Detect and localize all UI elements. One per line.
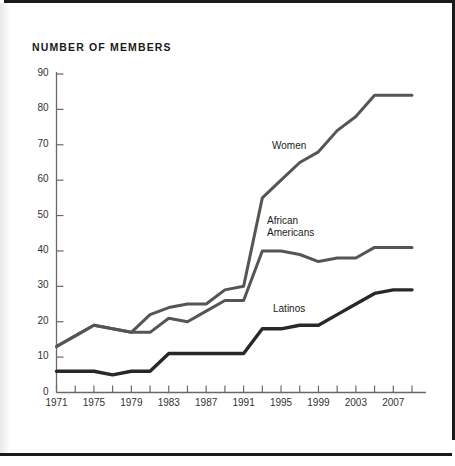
y-axis-tick-label: 70: [27, 138, 49, 149]
x-axis-tick-label: 1983: [152, 397, 186, 408]
x-axis-tick-label: 2003: [339, 397, 373, 408]
y-axis-tick-label: 0: [27, 386, 49, 397]
series-label-women: Women: [272, 140, 306, 152]
series-label-latinos: Latinos: [273, 303, 305, 315]
x-axis-tick-label: 2007: [376, 397, 410, 408]
x-axis-tick-label: 1979: [114, 397, 148, 408]
x-axis-tick-label: 1987: [189, 397, 223, 408]
x-axis-tick-label: 1995: [264, 397, 298, 408]
x-axis-tick-label: 1991: [227, 397, 261, 408]
y-axis-tick-label: 90: [27, 67, 49, 78]
chart-ticks: [57, 74, 413, 393]
series-line-african-americans: [57, 247, 413, 346]
series-label-african-americans: African Americans: [267, 215, 314, 239]
y-axis-tick-label: 10: [27, 350, 49, 361]
chart-axes: [57, 72, 427, 393]
x-axis-tick-label: 1999: [301, 397, 335, 408]
y-axis-tick-label: 80: [27, 102, 49, 113]
series-label-african-americans-line1: African: [267, 215, 298, 226]
series-line-women: [57, 95, 413, 346]
y-axis-tick-label: 20: [27, 315, 49, 326]
x-axis-tick-label: 1971: [40, 397, 74, 408]
y-axis-tick-label: 30: [27, 279, 49, 290]
series-label-african-americans-line2: Americans: [267, 227, 314, 238]
y-axis-tick-label: 50: [27, 209, 49, 220]
chart-page: NUMBER OF MEMBERS Women African American…: [0, 0, 455, 466]
y-axis-tick-label: 40: [27, 244, 49, 255]
y-axis-tick-label: 60: [27, 173, 49, 184]
chart-series-lines: [57, 95, 413, 375]
x-axis-tick-label: 1975: [77, 397, 111, 408]
series-line-latinos: [57, 290, 413, 375]
